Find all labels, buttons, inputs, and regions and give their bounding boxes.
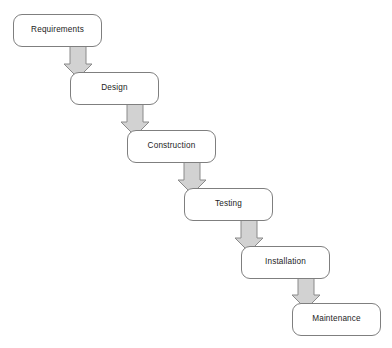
stage-label-installation: Installation [265,258,306,266]
stage-box-testing[interactable]: Testing [184,188,273,221]
arrow-layer [0,0,392,348]
stage-box-design[interactable]: Design [70,72,159,105]
stage-box-requirements[interactable]: Requirements [13,14,102,47]
stage-label-construction: Construction [148,142,196,150]
stage-label-requirements: Requirements [31,26,84,34]
stage-box-construction[interactable]: Construction [127,130,216,163]
waterfall-diagram: Requirements Design Construction Testing… [0,0,392,348]
stage-box-maintenance[interactable]: Maintenance [292,303,381,336]
stage-box-installation[interactable]: Installation [241,246,330,279]
stage-label-design: Design [101,84,127,92]
stage-label-testing: Testing [215,200,242,208]
stage-label-maintenance: Maintenance [312,315,361,323]
